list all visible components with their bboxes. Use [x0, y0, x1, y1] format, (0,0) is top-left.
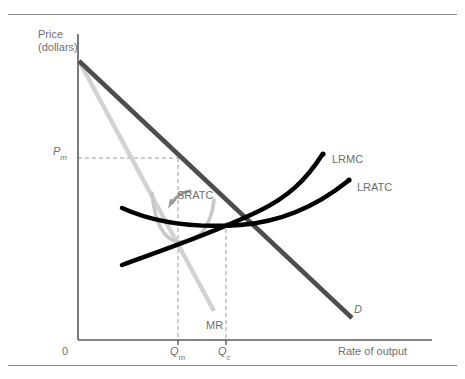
dashed-guides: [78, 158, 226, 340]
x-tick-label-qc: Qc: [218, 345, 231, 362]
curve-label-lratc: LRATC: [357, 181, 392, 194]
curve-marginal-revenue: [79, 61, 214, 311]
chart-canvas: [0, 0, 465, 379]
x-tick-label-qm: Qm: [170, 345, 185, 362]
origin-label: 0: [62, 345, 68, 358]
figure-container: Price (dollars) Rate of output 0 Pm Qm Q…: [0, 0, 465, 379]
sratc-arrowhead-icon: [168, 199, 176, 209]
curve-label-lrmc: LRMC: [332, 153, 363, 166]
y-axis-label-line1: Price: [38, 28, 63, 40]
x-tick-label-qc-base: Q: [218, 345, 227, 357]
curve-lrmc: [122, 155, 322, 265]
curve-label-demand: D: [354, 303, 362, 316]
y-axis-label-line2: (dollars): [38, 41, 78, 54]
y-axis-label: Price (dollars): [38, 28, 78, 54]
curve-label-sratc: SRATC: [177, 189, 213, 202]
y-tick-label-pm-subscript: m: [60, 153, 67, 162]
y-tick-label-pm: Pm: [53, 145, 67, 162]
x-tick-label-qc-subscript: c: [227, 353, 231, 362]
curve-demand: [79, 61, 352, 318]
x-tick-label-qm-base: Q: [170, 345, 179, 357]
lrmc-endpoint-dot: [320, 151, 325, 156]
x-axis-label: Rate of output: [338, 345, 407, 358]
x-tick-label-qm-subscript: m: [179, 353, 186, 362]
lratc-endpoint-dot: [346, 177, 351, 182]
curve-label-mr: MR: [206, 319, 223, 332]
